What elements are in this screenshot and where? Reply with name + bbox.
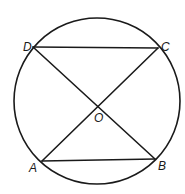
diagonal-db xyxy=(33,47,155,159)
label-c: C xyxy=(161,40,170,54)
label-d: D xyxy=(23,40,32,54)
label-b: B xyxy=(158,159,166,173)
diagonal-ca xyxy=(42,48,158,161)
label-o: O xyxy=(94,111,103,125)
chord-dc xyxy=(33,47,158,48)
geometry-diagram: D C A B O xyxy=(0,0,185,194)
chord-ab xyxy=(42,159,155,161)
label-a: A xyxy=(28,161,37,175)
